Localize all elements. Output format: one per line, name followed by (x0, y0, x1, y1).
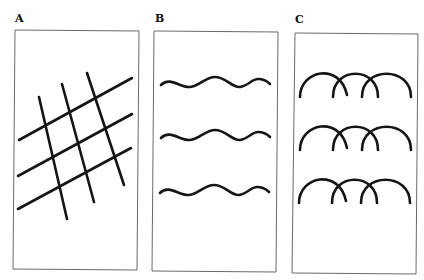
figure-canvas: A B C (0, 0, 424, 280)
panel-c-frame (292, 33, 418, 274)
panel-a: A (13, 12, 139, 270)
panel-b-label: B (155, 12, 164, 25)
panel-b: B (152, 12, 278, 272)
panel-b-frame (152, 31, 278, 272)
panel-c-label: C (295, 13, 304, 26)
panel-c: C (292, 13, 418, 274)
panel-a-frame (13, 30, 139, 270)
panel-a-label: A (14, 12, 24, 25)
